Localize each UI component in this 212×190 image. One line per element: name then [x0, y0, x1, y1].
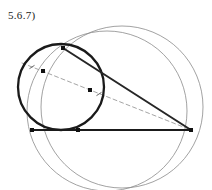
point-right-vertex — [189, 128, 193, 132]
point-bottom-mid — [76, 128, 80, 132]
geometry-canvas — [0, 0, 212, 190]
dashed-diagonal — [22, 63, 191, 130]
point-markers-group — [30, 46, 193, 132]
point-mid-on-dashed — [88, 88, 92, 92]
point-top-intersection — [61, 46, 65, 50]
point-upper-left-on-dashed — [41, 69, 45, 73]
chord-bold-diagonal — [63, 48, 191, 130]
point-bottom-left — [30, 128, 34, 132]
geometry-figure: 5.6.7) — [0, 0, 212, 190]
large-circle-left — [27, 31, 187, 190]
